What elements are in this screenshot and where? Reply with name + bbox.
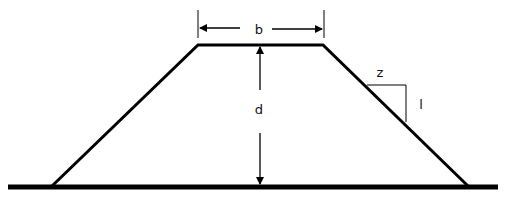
label-z: z	[377, 65, 384, 80]
trapezoid-diagram: b d z l	[0, 0, 510, 200]
label-b: b	[255, 22, 263, 37]
label-l: l	[419, 97, 423, 112]
label-d: d	[255, 102, 263, 117]
